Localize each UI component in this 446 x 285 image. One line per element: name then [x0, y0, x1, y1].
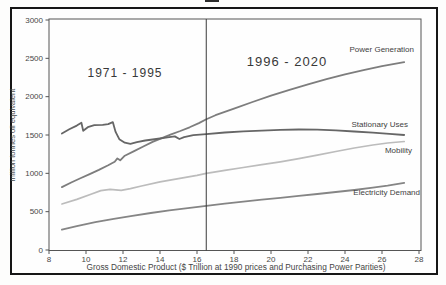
series-label-stationary-uses: Stationary Uses: [352, 120, 408, 129]
y-tick-label: 0: [39, 246, 44, 255]
series-lines: [62, 62, 404, 230]
series-label-electricity-demand: Electricity Demand: [353, 188, 420, 197]
y-tick-label: 500: [30, 207, 44, 216]
y-tick-label: 2500: [25, 54, 43, 63]
period-label-1996-2020: 1996 - 2020: [247, 54, 327, 69]
series-label-power-generation: Power Generation: [350, 45, 414, 54]
x-axis-title: Gross Domestic Product ($ Trillion at 19…: [87, 262, 386, 272]
x-tick-label: 28: [415, 255, 424, 264]
y-tick-label: 3000: [25, 16, 43, 25]
y-tick-label: 2000: [25, 92, 43, 101]
y-axis-title: million tonnes oil equivalent: [8, 88, 17, 182]
x-tick-label: 8: [47, 255, 52, 264]
series-label-mobility: Mobility: [385, 146, 412, 155]
y-tick-label: 1500: [25, 131, 43, 140]
y-tick-label: 1000: [25, 169, 43, 178]
period-label-1971-1995: 1971 - 1995: [87, 66, 162, 80]
chart-canvas: 8101214161820222426280500100015002000250…: [0, 0, 446, 285]
